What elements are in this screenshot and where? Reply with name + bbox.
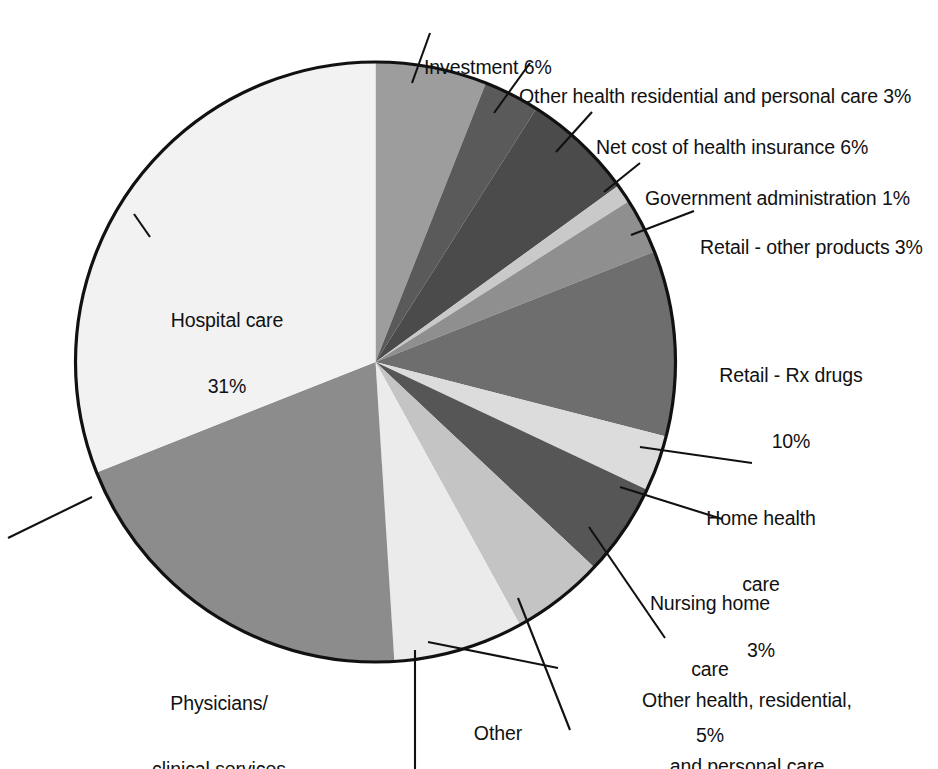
label-other-professional-services: Other professional services 7%	[428, 678, 568, 769]
label-nursing-home-care-line1: Nursing home	[620, 592, 800, 614]
label-other-health-residential-bottom-line1: Other health, residential,	[556, 689, 938, 711]
label-physicians-clinical-services: Physicians/ clinical services 20%	[98, 648, 340, 769]
label-retail-other-products: Retail - other products 3%	[700, 192, 923, 302]
leader-other-prof-a	[428, 642, 558, 668]
leader-physicians	[8, 497, 92, 538]
label-other-professional-services-line1: Other	[428, 722, 568, 744]
label-other-health-residential-bottom-line2: and personal care	[556, 755, 938, 769]
label-retail-other-products-line1: Retail - other products 3%	[700, 236, 923, 258]
label-hospital-care-line2: 31%	[137, 375, 317, 397]
label-retail-rx-drugs-line2: 10%	[686, 430, 896, 452]
label-home-health-care-line1: Home health	[676, 507, 846, 529]
label-hospital-care-line1: Hospital care	[137, 309, 317, 331]
label-hospital-care: Hospital care 31%	[137, 265, 317, 441]
label-retail-rx-drugs-line1: Retail - Rx drugs	[686, 364, 896, 386]
pie-chart-figure: Investment 6% Other health residential a…	[0, 0, 938, 769]
label-physicians-line1: Physicians/	[98, 692, 340, 714]
label-other-health-residential-bottom: Other health, residential, and personal …	[556, 645, 938, 769]
label-physicians-line2: clinical services	[98, 758, 340, 769]
